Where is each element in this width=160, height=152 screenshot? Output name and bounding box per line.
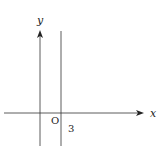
origin-label: O xyxy=(51,115,59,126)
y-axis-label: y xyxy=(36,14,44,27)
x-axis-label: x xyxy=(150,107,157,120)
line-intercept-label: 3 xyxy=(68,123,74,134)
coordinate-diagram: y x O 3 xyxy=(0,0,160,152)
